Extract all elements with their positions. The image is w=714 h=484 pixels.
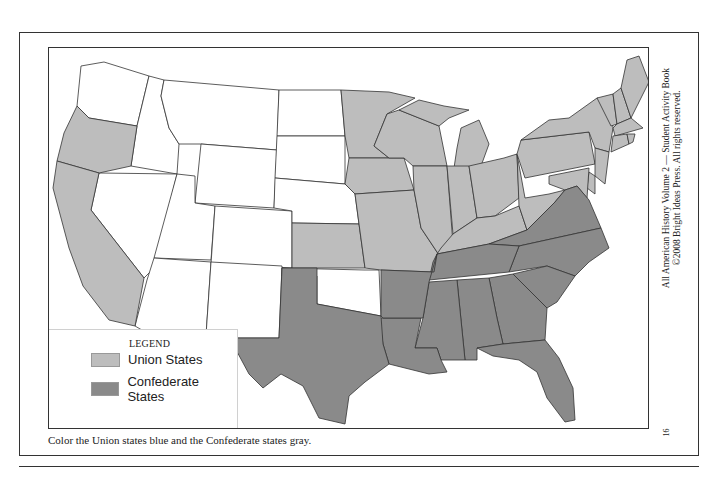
state-florida[interactable] — [477, 340, 575, 422]
legend-item-union: Union States — [91, 352, 202, 367]
legend-title: LEGEND — [129, 338, 170, 349]
state-michigan[interactable] — [454, 120, 489, 168]
confederate-swatch — [91, 382, 119, 396]
state-colorado[interactable] — [211, 206, 292, 268]
state-new-jersey[interactable] — [595, 148, 609, 184]
state-montana[interactable] — [161, 80, 279, 150]
legend: LEGEND Union States Confederate States — [49, 329, 238, 429]
copyright-sidebar: All American History Volume 2 — Student … — [652, 48, 692, 308]
legend-label-union: Union States — [128, 352, 202, 367]
legend-label-confederate: Confederate States — [127, 374, 237, 404]
bottom-divider — [19, 466, 699, 467]
state-north-dakota[interactable] — [277, 90, 345, 136]
state-connecticut[interactable] — [611, 134, 629, 152]
state-south-dakota[interactable] — [275, 136, 345, 184]
state-wyoming[interactable] — [195, 144, 277, 208]
copyright-notice: ©2008 Bright Ideas Press. All rights res… — [672, 68, 683, 288]
union-swatch — [91, 353, 120, 367]
page-number: 16 — [662, 429, 671, 437]
map-container: LEGEND Union States Confederate States — [48, 47, 649, 429]
instruction-caption: Color the Union states blue and the Conf… — [48, 434, 311, 446]
state-iowa[interactable] — [345, 158, 414, 194]
book-title: All American History Volume 2 — Student … — [661, 68, 672, 288]
state-kansas[interactable] — [292, 223, 365, 268]
legend-item-confederate: Confederate States — [91, 374, 237, 404]
